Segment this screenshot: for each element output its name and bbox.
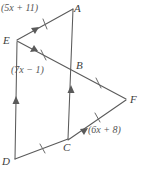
vertex-label-A: A <box>74 3 81 14</box>
segment-AC-line <box>68 9 73 139</box>
side-EB-expression: (7x − 1) <box>11 65 44 75</box>
segment-DC-line <box>15 139 68 159</box>
vertex-label-D: D <box>2 156 10 167</box>
vertex-label-F: F <box>130 94 137 105</box>
side-EA-expression: (5x + 11) <box>1 3 38 13</box>
vertex-label-B: B <box>76 60 83 71</box>
arrowhead-AC <box>68 85 75 93</box>
geometry-drawing <box>0 0 143 173</box>
arrowhead-EA <box>31 27 39 34</box>
arrowhead-ED <box>13 96 20 104</box>
geometry-figure: A E B F C D (5x + 11) (7x − 1) (6x + 8) <box>0 0 143 173</box>
tick-mark-EB <box>41 50 46 60</box>
vertex-label-E: E <box>3 35 10 46</box>
vertex-label-C: C <box>63 142 70 153</box>
side-CF-expression: (6x + 8) <box>88 125 121 135</box>
